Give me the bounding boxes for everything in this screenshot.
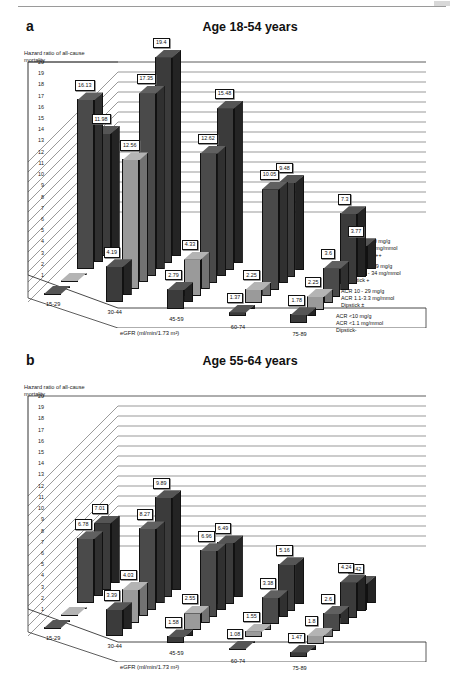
x-tick-label: 75-89 (292, 665, 306, 671)
bar-front-face (245, 289, 262, 303)
panel-a-title: Age 18-54 years (0, 20, 454, 34)
bar (245, 289, 262, 303)
bar-value-label: 1.58 (165, 617, 182, 627)
x-tick-label: 30-44 (108, 643, 122, 649)
bar-value-label: 4.24 (338, 563, 355, 573)
bar-value-label: 12.62 (198, 134, 218, 144)
bar-side-face (111, 126, 120, 249)
y-tick-label: 15 (30, 449, 44, 455)
panel-b-title: Age 55-64 years (0, 354, 454, 368)
bar-value-label: 2.55 (182, 594, 199, 604)
bar (184, 613, 201, 630)
bar-value-label: 3.6 (321, 249, 335, 259)
y-tick-label: 2 (30, 595, 44, 601)
page-corner-mark (434, 1, 450, 6)
bar-value-label: 1.47 (288, 633, 305, 643)
y-tick-label: 7 (30, 539, 44, 545)
bar-value-label: 11.98 (92, 114, 111, 124)
bar-front-face (307, 635, 324, 644)
bar-value-label: 5.16 (276, 545, 293, 555)
bar-value-label: 10.05 (260, 170, 280, 180)
y-tick-label: 18 (30, 81, 44, 87)
bar-side-face (295, 557, 304, 604)
bar-value-label: 4.33 (182, 240, 199, 250)
bar-side-face (234, 535, 243, 597)
bar-side-face (172, 490, 181, 590)
bar-value-label: 7.3 (338, 194, 352, 204)
y-tick-label: 17 (30, 427, 44, 433)
y-tick-label: 6 (30, 550, 44, 556)
y-tick-label: 5 (30, 227, 44, 233)
bar (245, 631, 262, 637)
panel-a-legend-group-3: ACR 10 - 29 mg/g ACR 1.1-3.3 mg/mmol Dip… (341, 288, 394, 309)
y-tick-label: 5 (30, 561, 44, 567)
y-tick-label: 20 (30, 393, 44, 399)
y-tick-label: 9 (30, 182, 44, 188)
bar (290, 314, 307, 323)
y-tick-label: 18 (30, 415, 44, 421)
bar-value-label: 12.56 (120, 140, 140, 150)
bar-side-face (217, 543, 226, 610)
bar-side-face (156, 86, 165, 269)
legend-line: Dipstick ± (341, 302, 394, 309)
bar-value-label: 4.19 (104, 247, 121, 257)
bar-value-label: 1.37 (227, 293, 244, 303)
bar-side-face (172, 50, 181, 256)
bar-value-label: 16.13 (75, 80, 95, 90)
bar (167, 636, 184, 643)
panel-b-x-axis-label: eGFR (ml/min/1.73 m²) (120, 664, 179, 670)
y-tick-label: 13 (30, 471, 44, 477)
bar-value-label: 3.38 (260, 578, 277, 588)
bar-value-label: 17.35 (137, 74, 157, 84)
top-divider (18, 6, 446, 7)
y-tick-label: 10 (30, 171, 44, 177)
y-tick-label: 19 (30, 70, 44, 76)
panel-b-plot-area: 2019181716151413121110987654321 15-2930-… (22, 394, 432, 662)
bar-front-face (77, 538, 94, 603)
panel-a-y-ticks: 2019181716151413121110987654321 (22, 60, 44, 328)
bar-value-label: 15.48 (215, 89, 235, 99)
y-tick-label: 9 (30, 516, 44, 522)
y-tick-label: 4 (30, 572, 44, 578)
x-tick-label: 60-74 (231, 658, 245, 664)
y-tick-label: 12 (30, 483, 44, 489)
bar (307, 635, 324, 644)
bar-side-face (94, 531, 103, 596)
x-tick-label: 45-59 (169, 650, 183, 656)
bar-value-label: 19.4 (153, 38, 170, 48)
bar-value-label: 8.27 (137, 509, 154, 519)
bar-front-face (106, 609, 123, 636)
bar-front-face (262, 189, 279, 290)
bar (106, 266, 123, 302)
bar-value-label: 3.77 (348, 226, 365, 236)
bar (229, 312, 246, 316)
bar (262, 189, 279, 290)
y-tick-label: 19 (30, 404, 44, 410)
bar (44, 293, 61, 295)
y-tick-label: 17 (30, 93, 44, 99)
bar-side-face (111, 516, 120, 583)
bar-side-face (217, 146, 226, 276)
y-tick-label: 10 (30, 505, 44, 511)
x-tick-label: 75-89 (292, 331, 306, 337)
legend-line: Dipstick- (336, 327, 383, 334)
bar-value-label: 1.08 (227, 629, 244, 639)
bar-value-label: 3.39 (104, 590, 121, 600)
bar-value-label: 7.01 (92, 504, 109, 514)
legend-line: ACR <1.1 mg/mmol (336, 320, 383, 327)
y-tick-label: 8 (30, 528, 44, 534)
bar-value-label: 4.03 (120, 570, 137, 580)
y-tick-label: 6 (30, 216, 44, 222)
panel-b: b Age 55-64 years Hazard ratio of all-ca… (0, 342, 454, 675)
bar-front-face (106, 266, 123, 302)
y-tick-label: 4 (30, 238, 44, 244)
bar-value-label: 2.25 (243, 270, 260, 280)
bar (229, 648, 246, 650)
bar (106, 609, 123, 636)
bar-value-label: 9.89 (153, 478, 170, 488)
bar-value-label: 6.78 (75, 519, 92, 529)
bar (290, 652, 307, 657)
bar-value-label: 6.96 (198, 531, 215, 541)
y-tick-label: 11 (30, 160, 44, 166)
legend-line: ACR 1.1-3.3 mg/mmol (341, 295, 394, 302)
